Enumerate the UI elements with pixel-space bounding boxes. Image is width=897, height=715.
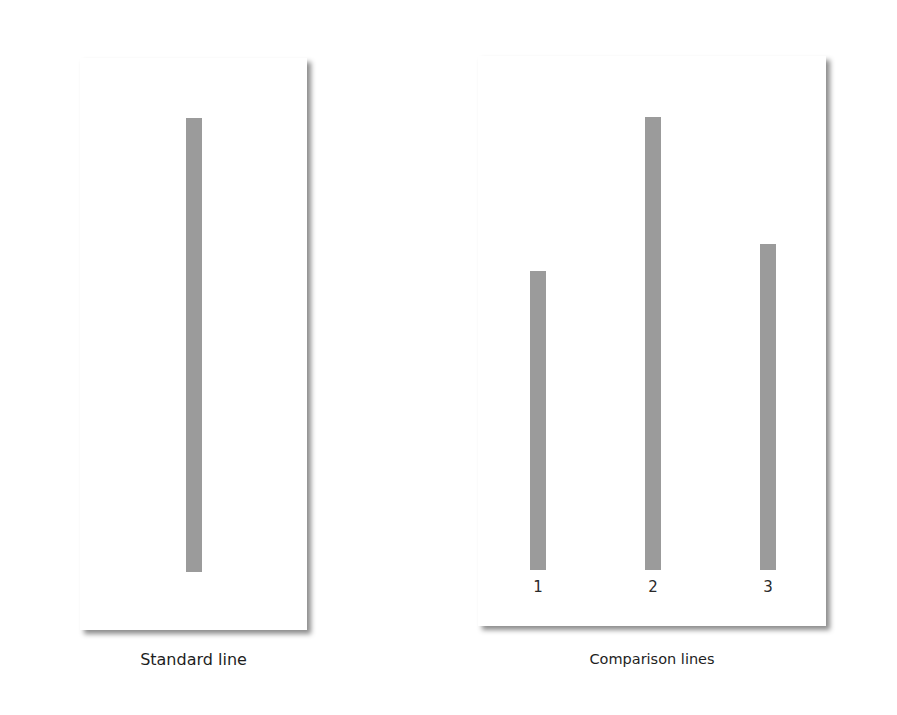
comparison-line-3-label: 3 [753, 578, 783, 596]
comparison-lines-card: 1 2 3 [478, 56, 826, 626]
standard-line-card [80, 58, 307, 630]
comparison-line-2 [645, 117, 661, 570]
comparison-line-3 [760, 244, 776, 570]
standard-line-caption: Standard line [80, 650, 307, 669]
standard-line [186, 118, 202, 572]
comparison-lines-caption: Comparison lines [478, 651, 826, 667]
comparison-line-1 [530, 271, 546, 570]
comparison-line-1-label: 1 [523, 578, 553, 596]
comparison-line-2-label: 2 [638, 578, 668, 596]
